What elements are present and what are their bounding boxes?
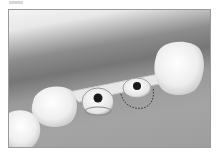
right-molar: [154, 42, 204, 95]
implant-screw-hole-left: [94, 94, 103, 103]
implant-screw-hole-right: [133, 82, 141, 90]
figure-label-bar: [9, 1, 23, 4]
photo-illustration: [9, 10, 211, 148]
dental-implant-photo: [8, 9, 211, 148]
